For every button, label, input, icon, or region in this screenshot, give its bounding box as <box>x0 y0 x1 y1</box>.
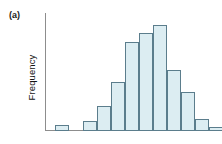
histogram-bar <box>83 121 97 131</box>
histogram-bar <box>167 70 181 131</box>
histogram-bar <box>111 82 125 131</box>
histogram-bar <box>125 42 139 131</box>
histogram-bar <box>195 119 209 131</box>
histogram-bar <box>97 106 111 131</box>
histogram-bar <box>55 125 69 131</box>
bar-series <box>45 13 220 131</box>
histogram-bar <box>209 127 222 131</box>
histogram-bar <box>181 92 195 131</box>
histogram-figure: (a) Frequency <box>0 0 222 144</box>
histogram-bar <box>153 25 167 131</box>
histogram-bar <box>139 33 153 131</box>
plot-area: Frequency <box>0 0 222 144</box>
y-axis-title: Frequency <box>26 33 37 123</box>
